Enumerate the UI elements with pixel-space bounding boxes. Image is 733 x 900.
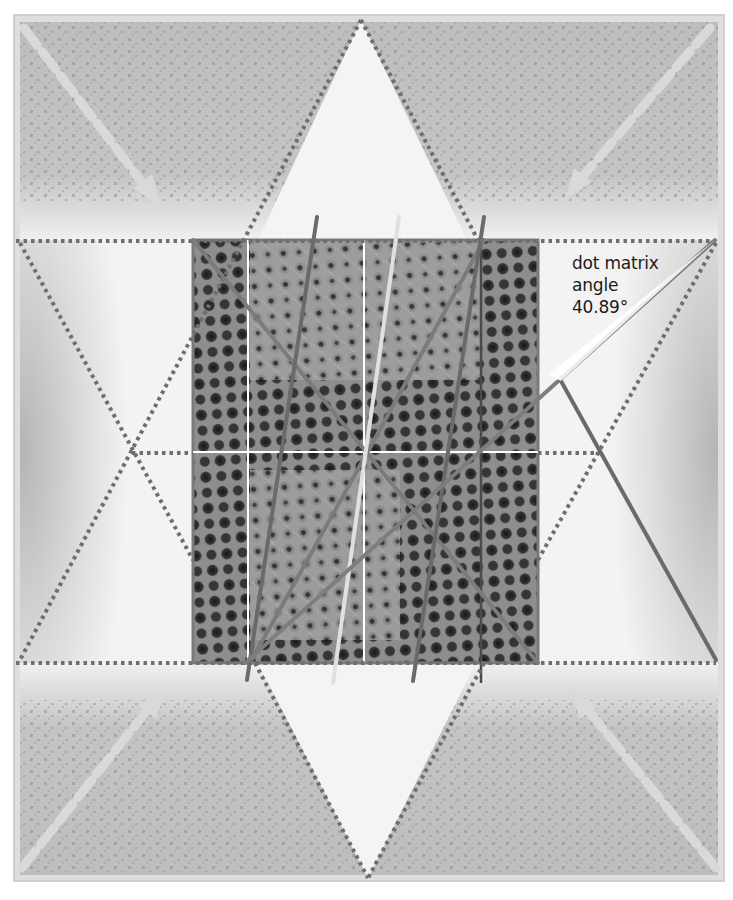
left-shade — [20, 240, 140, 663]
angle-annotation: dot matrix angle 40.89° — [572, 252, 659, 318]
annotation-angle-value: 40.89° — [572, 296, 659, 318]
annotation-line-1: dot matrix — [572, 252, 659, 274]
annotation-line-2: angle — [572, 274, 659, 296]
diagram-canvas — [0, 0, 733, 900]
